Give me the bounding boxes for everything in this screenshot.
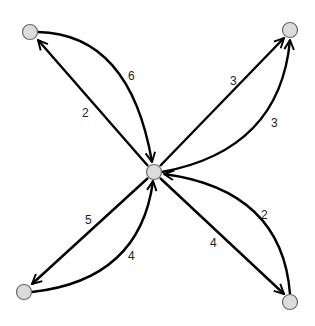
node-bottom-right	[283, 295, 298, 310]
edge-label-bottomleft-straight: 5	[85, 213, 92, 227]
edge-center-to-topright-straight	[160, 38, 284, 166]
edge-bottomright-to-center-curved	[164, 174, 290, 294]
edge-label-topright-curved: 3	[271, 116, 278, 130]
edge-center-to-topleft-straight	[38, 40, 148, 166]
node-bottom-left	[17, 285, 32, 300]
edge-label-topleft-curved: 6	[128, 69, 135, 83]
edge-label-bottomright-curved: 2	[261, 208, 268, 222]
edge-bottomleft-to-center-curved	[32, 181, 153, 292]
edge-label-bottomright-straight: 4	[210, 236, 217, 250]
edge-center-to-topright-curved	[162, 40, 290, 172]
graph-diagram: 6 2 3 3 5 4 4 2	[0, 0, 315, 326]
node-top-left	[23, 25, 38, 40]
edge-topleft-to-center-curved	[38, 32, 152, 162]
edge-center-to-bottomleft-straight	[32, 178, 148, 284]
edge-label-topleft-straight: 2	[82, 106, 89, 120]
node-top-right	[283, 23, 298, 38]
edge-center-to-bottomright-straight	[160, 178, 284, 294]
node-center	[147, 165, 162, 180]
edge-label-topright-straight: 3	[230, 74, 237, 88]
edge-label-bottomleft-curved: 4	[128, 249, 135, 263]
